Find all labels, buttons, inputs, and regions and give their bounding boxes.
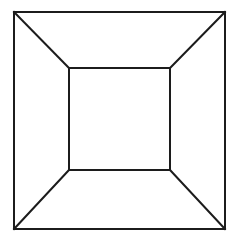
figure-canvas: One-point perspective box outline Line d… — [0, 0, 236, 242]
perspective-box-drawing — [0, 0, 236, 242]
